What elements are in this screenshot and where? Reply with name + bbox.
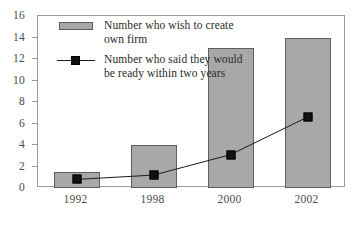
x-tick-label: 2000 xyxy=(217,193,241,205)
y-tick-label: 2 xyxy=(19,160,25,172)
legend-entry-line: Number who said they would be ready with… xyxy=(57,53,247,80)
y-tick-label: 12 xyxy=(13,52,25,64)
y-tick-label: 10 xyxy=(13,74,25,86)
trend-line xyxy=(77,117,308,179)
x-tick-label: 1992 xyxy=(63,193,87,205)
x-tick-label: 2002 xyxy=(294,193,318,205)
y-tick-label: 8 xyxy=(19,95,25,107)
line-marker xyxy=(72,175,81,184)
chart-figure: 0246810121416 Number who wish to create … xyxy=(0,0,357,225)
legend-line-marker-icon xyxy=(57,53,97,68)
chart-legend: Number who wish to create own firm Numbe… xyxy=(57,19,247,87)
y-tick-label: 16 xyxy=(13,9,25,21)
legend-label-bar: Number who wish to create own firm xyxy=(104,19,247,46)
y-axis: 0246810121416 xyxy=(0,0,34,225)
y-tick-label: 14 xyxy=(13,31,25,43)
legend-bar-swatch-icon xyxy=(57,19,97,34)
y-tick-label: 4 xyxy=(19,138,25,150)
y-tick-label: 6 xyxy=(19,117,25,129)
plot-area: Number who wish to create own firm Numbe… xyxy=(37,15,345,187)
x-axis: 1992199820002002 xyxy=(37,193,345,217)
legend-label-line: Number who said they would be ready with… xyxy=(104,53,247,80)
line-marker xyxy=(303,113,312,122)
y-tick-label: 0 xyxy=(19,181,25,193)
x-tick-label: 1998 xyxy=(140,193,164,205)
legend-entry-bar: Number who wish to create own firm xyxy=(57,19,247,46)
line-marker xyxy=(226,150,235,159)
line-marker xyxy=(149,171,158,180)
